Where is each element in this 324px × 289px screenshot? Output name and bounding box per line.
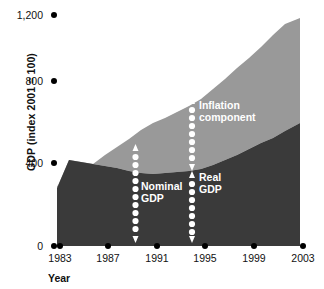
x-axis-tick-label-1995: 1995 [180, 252, 230, 264]
y-axis-tick-dot-1200 [51, 12, 57, 18]
x-axis-tick-dot-1987 [105, 243, 111, 249]
y-axis-tick-label-0: 0 [37, 240, 43, 252]
annotation-label-inflation-component: Inflation component [199, 100, 256, 123]
x-axis-tick-dot-1983 [57, 243, 63, 249]
x-axis-tick-dot-1999 [251, 243, 257, 249]
y-axis-tick-label-400: 400 [25, 157, 43, 169]
x-axis-tick-label-1983: 1983 [35, 252, 85, 264]
y-axis-tick-1200: 1,200 [0, 9, 57, 21]
y-axis-tick-400: 400 [0, 157, 57, 169]
y-axis-tick-dot-400 [51, 160, 57, 166]
annotation-label-nominal-gdp: Nominal GDP [141, 181, 182, 204]
annotation-arrow-inflation-component [189, 97, 195, 171]
y-axis-title: GDP (index 2001 = 100) [25, 27, 37, 197]
annotation-arrow-real-gdp [189, 171, 195, 243]
x-axis-tick-dot-2003 [300, 243, 306, 249]
gdp-area-chart: Inflation component Real GDP Nominal GDP… [0, 0, 324, 289]
y-axis-tick-0: 0 [0, 240, 57, 252]
x-axis-tick-label-1987: 1987 [83, 252, 133, 264]
y-axis-tick-dot-800 [51, 78, 57, 84]
x-axis-tick-dot-1991 [154, 243, 160, 249]
x-axis-tick-dot-1995 [202, 243, 208, 249]
y-axis-tick-label-800: 800 [25, 75, 43, 87]
x-axis-title: Year [48, 272, 70, 284]
y-axis-tick-label-1200: 1,200 [17, 9, 43, 21]
x-axis-tick-label-1999: 1999 [229, 252, 279, 264]
annotation-label-real-gdp: Real GDP [199, 172, 222, 195]
x-axis-tick-label-1991: 1991 [132, 252, 182, 264]
y-axis-tick-800: 800 [0, 75, 57, 87]
x-axis-tick-label-2003: 2003 [278, 252, 324, 264]
